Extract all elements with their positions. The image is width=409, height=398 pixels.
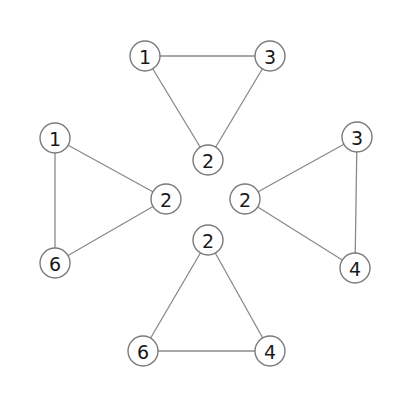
triangle-left-nodes: 126 bbox=[40, 123, 181, 278]
edge-1-2 bbox=[55, 138, 166, 199]
edge-2-6 bbox=[55, 199, 166, 263]
triangle-top-nodes: 132 bbox=[130, 41, 285, 175]
node-2: 2 bbox=[151, 184, 181, 214]
node-label: 2 bbox=[202, 230, 214, 252]
triangle-bottom-edges bbox=[143, 240, 270, 351]
node-2: 2 bbox=[193, 145, 223, 175]
triangle-left-edges bbox=[55, 138, 166, 263]
node-1: 1 bbox=[40, 123, 70, 153]
triangle-right-edges bbox=[245, 137, 357, 268]
node-label: 2 bbox=[202, 150, 214, 172]
edge-3-2 bbox=[208, 56, 270, 160]
edge-2-6 bbox=[143, 240, 208, 351]
edge-1-2 bbox=[145, 56, 208, 160]
node-6: 6 bbox=[40, 248, 70, 278]
node-3: 3 bbox=[342, 122, 372, 152]
node-label: 2 bbox=[239, 189, 251, 211]
node-4: 4 bbox=[340, 253, 370, 283]
edges-layer bbox=[55, 56, 357, 351]
nodes-layer: 132126324264 bbox=[40, 41, 372, 366]
node-3: 3 bbox=[255, 41, 285, 71]
node-label: 6 bbox=[137, 341, 149, 363]
triangle-right-nodes: 324 bbox=[230, 122, 372, 283]
node-label: 4 bbox=[264, 341, 276, 363]
node-label: 1 bbox=[49, 128, 61, 150]
node-2: 2 bbox=[193, 225, 223, 255]
node-1: 1 bbox=[130, 41, 160, 71]
edge-2-4 bbox=[245, 199, 355, 268]
node-label: 6 bbox=[49, 253, 61, 275]
edge-2-4 bbox=[208, 240, 270, 351]
edge-3-2 bbox=[245, 137, 357, 199]
node-2: 2 bbox=[230, 184, 260, 214]
node-6: 6 bbox=[128, 336, 158, 366]
node-label: 4 bbox=[349, 258, 361, 280]
node-label: 3 bbox=[351, 127, 363, 149]
node-4: 4 bbox=[255, 336, 285, 366]
node-label: 2 bbox=[160, 189, 172, 211]
edge-3-4 bbox=[355, 137, 357, 268]
graph-diagram: 132126324264 bbox=[0, 0, 409, 398]
node-label: 1 bbox=[139, 46, 151, 68]
triangle-bottom-nodes: 264 bbox=[128, 225, 285, 366]
node-label: 3 bbox=[264, 46, 276, 68]
